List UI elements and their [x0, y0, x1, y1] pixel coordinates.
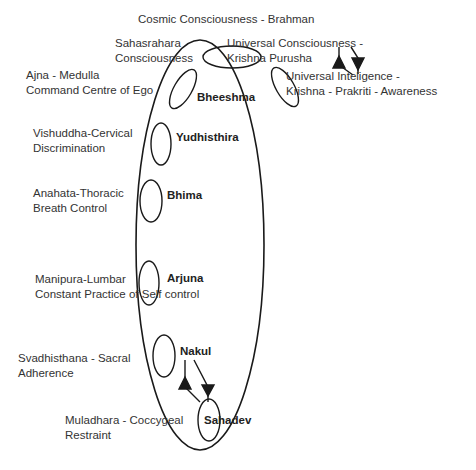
- chakra-diagram: Cosmic Consciousness - Brahman Sahasraha…: [0, 0, 476, 470]
- figure-arjuna: Arjuna: [167, 272, 203, 284]
- vishuddha-ellipse: [151, 123, 171, 165]
- ajna-ellipse: [164, 65, 202, 112]
- figure-bhima: Bhima: [167, 189, 202, 201]
- label-sahasrahara: Sahasrahara Consciousness: [115, 36, 193, 66]
- figure-sahadev: Sahadev: [204, 414, 251, 426]
- figure-bheeshma: Bheeshma: [197, 91, 255, 103]
- label-anahata: Anahata-Thoracic Breath Control: [33, 186, 124, 216]
- figure-yudhisthira: Yudhisthira: [176, 131, 239, 143]
- label-svadhisthana: Svadhisthana - Sacral Adherence: [18, 351, 131, 381]
- label-vishuddha: Vishuddha-Cervical Discrimination: [33, 126, 133, 156]
- cosmic-title: Cosmic Consciousness - Brahman: [138, 12, 314, 27]
- label-purusha: Universal Consciousness - Krishna Purush…: [227, 36, 363, 66]
- lower-arrows: [179, 360, 214, 402]
- label-prakriti: Universal Inteligence - Krishna - Prakri…: [286, 69, 437, 99]
- svadhisthana-ellipse: [153, 335, 175, 377]
- label-ajna: Ajna - Medulla Command Centre of Ego: [26, 68, 153, 98]
- arrow-down-icon: [202, 385, 214, 396]
- figure-nakul: Nakul: [180, 345, 211, 357]
- anahata-ellipse: [140, 180, 162, 222]
- arrow-up-icon: [179, 377, 191, 389]
- label-muladhara: Muladhara - Coccygeal Restraint: [65, 413, 183, 443]
